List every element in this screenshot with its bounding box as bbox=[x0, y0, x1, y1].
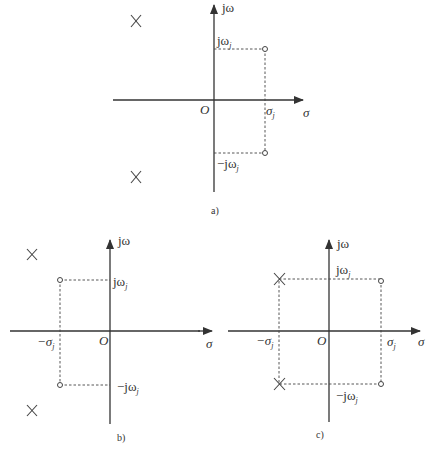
a-pole-upper bbox=[131, 15, 141, 27]
a-sigma-label: σj bbox=[266, 103, 275, 120]
c-sigma-pos-label: σj bbox=[387, 334, 396, 351]
c-neg-freq-label: −jωj bbox=[336, 388, 359, 405]
c-vertical-axis-label: jω bbox=[336, 236, 350, 251]
a-caption: a) bbox=[211, 205, 219, 217]
diagram-c: jω σ O jωj −jωj σj −σj c) bbox=[228, 236, 425, 441]
c-pole-upper bbox=[274, 273, 285, 285]
a-origin-label: O bbox=[200, 102, 210, 117]
c-zero-lower bbox=[379, 382, 384, 387]
a-horizontal-axis-label: σ bbox=[303, 105, 310, 120]
diagram-b: jω O jωj −jωj −σj b) bbox=[10, 233, 200, 444]
a-zero-lower bbox=[263, 151, 268, 156]
b-pole-lower bbox=[27, 405, 37, 416]
b-vertical-axis-label: jω bbox=[117, 233, 131, 248]
c-horizontal-axis-label: σ bbox=[418, 334, 425, 349]
pole-zero-diagrams: jω σ O jωj −jωj σj a) jω O jωj −jωj −σj bbox=[0, 0, 439, 451]
b-zero-lower bbox=[58, 383, 63, 388]
a-vertical-axis-label: jω bbox=[221, 0, 235, 15]
c-pos-freq-label: jωj bbox=[335, 262, 351, 279]
b-pole-upper bbox=[27, 249, 37, 260]
a-neg-freq-label: −jωj bbox=[217, 156, 240, 173]
a-zero-upper bbox=[263, 47, 268, 52]
b-origin-label: O bbox=[99, 333, 109, 348]
diagram-a: jω σ O jωj −jωj σj a) bbox=[113, 0, 310, 217]
b-neg-freq-label: −jωj bbox=[117, 379, 140, 396]
b-sigma-label: −σj bbox=[37, 334, 55, 351]
c-zero-upper bbox=[379, 279, 384, 284]
c-pole-lower bbox=[274, 378, 285, 390]
a-pole-lower bbox=[131, 171, 141, 183]
b-pos-freq-label: jωj bbox=[112, 274, 128, 291]
c-sigma-neg-label: −σj bbox=[256, 333, 274, 350]
c-origin-label: O bbox=[317, 333, 327, 348]
b-horizontal-axis-label: σ bbox=[206, 336, 213, 351]
c-caption: c) bbox=[316, 429, 324, 441]
b-zero-upper bbox=[58, 278, 63, 283]
b-caption: b) bbox=[117, 432, 125, 444]
a-pos-freq-label: jωj bbox=[216, 33, 232, 50]
